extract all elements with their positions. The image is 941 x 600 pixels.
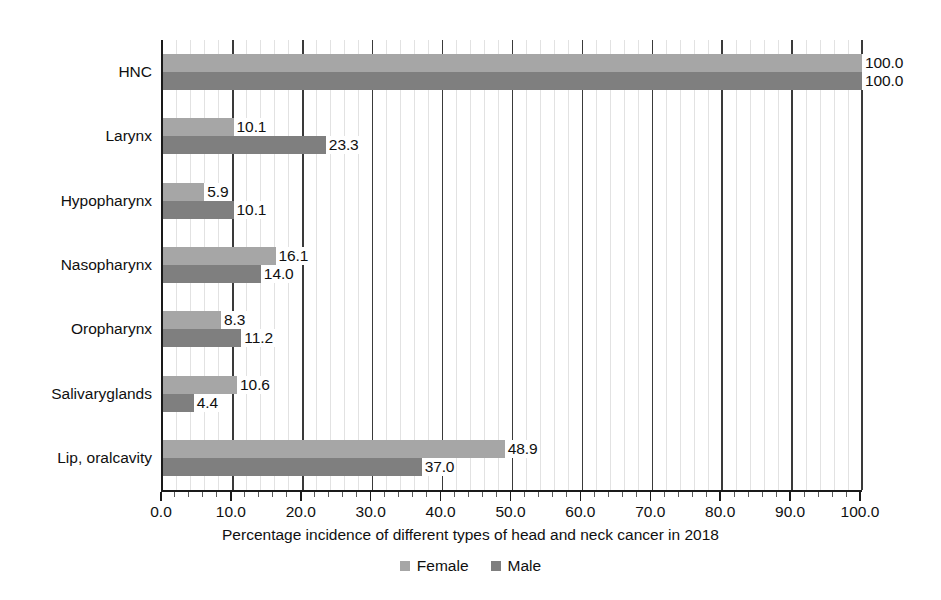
- bar-chart: HNCLarynxHypopharynxNasopharynxOropharyn…: [0, 0, 941, 600]
- bars-layer: 100.0100.010.123.35.910.116.114.08.311.2…: [163, 40, 862, 490]
- x-tick-minor: [216, 492, 217, 497]
- bar-value-label: 23.3: [326, 136, 361, 154]
- x-tick-minor: [314, 492, 315, 497]
- x-tick-label: 80.0: [705, 503, 735, 521]
- bar-value-label: 48.9: [505, 440, 540, 458]
- bar-group: 8.311.2: [163, 311, 862, 347]
- x-tick-minor: [426, 492, 427, 497]
- bar-female: [163, 311, 221, 329]
- bar-male: [163, 201, 234, 219]
- x-tick-minor: [608, 492, 609, 497]
- x-tick-minor: [776, 492, 777, 497]
- x-tick-minor: [328, 492, 329, 497]
- x-tick-label: 30.0: [356, 503, 386, 521]
- x-tick-minor: [692, 492, 693, 497]
- bar-female: [163, 247, 276, 265]
- x-tick-minor: [384, 492, 385, 497]
- x-tick-label: 100.0: [841, 503, 880, 521]
- legend-item-male[interactable]: Male: [491, 558, 542, 574]
- x-tick-label: 20.0: [286, 503, 316, 521]
- x-tick-minor: [286, 492, 287, 497]
- bar-male: [163, 136, 326, 154]
- x-tick-label: 50.0: [495, 503, 525, 521]
- bar-value-label: 10.1: [234, 118, 269, 136]
- bar-male: [163, 265, 261, 283]
- bar-female: [163, 183, 204, 201]
- bar-male: [163, 329, 241, 347]
- x-tick-minor: [342, 492, 343, 497]
- x-tick-major: [789, 492, 791, 501]
- x-tick-minor: [496, 492, 497, 497]
- y-axis-label: Lip, oralcavity: [0, 449, 152, 467]
- y-axis-labels: HNCLarynxHypopharynxNasopharynxOropharyn…: [0, 40, 152, 490]
- bar-value-label: 5.9: [204, 183, 230, 201]
- x-tick-minor: [482, 492, 483, 497]
- x-tick-minor: [524, 492, 525, 497]
- x-tick-minor: [818, 492, 819, 497]
- y-axis-label: Salivaryglands: [0, 385, 152, 403]
- x-tick-label: 0.0: [150, 503, 172, 521]
- bar-male: [163, 394, 194, 412]
- x-tick-major: [510, 492, 512, 501]
- y-axis-label: HNC: [0, 63, 152, 81]
- x-tick-major: [230, 492, 232, 501]
- x-tick-minor: [356, 492, 357, 497]
- x-tick-label: 40.0: [426, 503, 456, 521]
- x-tick-minor: [398, 492, 399, 497]
- x-tick-label: 90.0: [775, 503, 805, 521]
- x-tick-major: [370, 492, 372, 501]
- x-tick-minor: [412, 492, 413, 497]
- bar-value-label: 8.3: [221, 311, 247, 329]
- legend-label: Female: [417, 558, 469, 574]
- x-tick-minor: [202, 492, 203, 497]
- bar-value-label: 11.2: [241, 329, 275, 347]
- y-axis-label: Hypopharynx: [0, 192, 152, 210]
- bar-group: 48.937.0: [163, 440, 862, 476]
- bar-female: [163, 440, 505, 458]
- x-tick-minor: [174, 492, 175, 497]
- bar-female: [163, 54, 862, 72]
- bar-value-label: 37.0: [422, 458, 457, 476]
- x-tick-minor: [706, 492, 707, 497]
- legend: FemaleMale: [0, 558, 941, 574]
- bar-group: 10.123.3: [163, 118, 862, 154]
- bar-group: 100.0100.0: [163, 54, 862, 90]
- x-tick-label: 70.0: [635, 503, 665, 521]
- y-axis-label: Larynx: [0, 127, 152, 145]
- x-tick-minor: [748, 492, 749, 497]
- x-tick-minor: [188, 492, 189, 497]
- x-tick-minor: [622, 492, 623, 497]
- x-tick-minor: [538, 492, 539, 497]
- x-tick-major: [160, 492, 162, 501]
- legend-swatch-icon: [491, 561, 501, 571]
- x-axis-title: Percentage incidence of different types …: [0, 526, 941, 544]
- x-tick-minor: [594, 492, 595, 497]
- x-tick-major: [300, 492, 302, 501]
- bar-male: [163, 72, 862, 90]
- bar-female: [163, 118, 234, 136]
- x-tick-minor: [832, 492, 833, 497]
- x-tick-minor: [804, 492, 805, 497]
- bar-value-label: 4.4: [194, 394, 220, 412]
- plot-area: 100.0100.010.123.35.910.116.114.08.311.2…: [161, 40, 862, 492]
- x-tick-minor: [272, 492, 273, 497]
- bar-female: [163, 376, 237, 394]
- bar-value-label: 14.0: [261, 265, 296, 283]
- x-tick-minor: [454, 492, 455, 497]
- x-tick-minor: [258, 492, 259, 497]
- bar-value-label: 10.1: [234, 201, 269, 219]
- legend-item-female[interactable]: Female: [400, 558, 469, 574]
- x-tick-minor: [678, 492, 679, 497]
- x-tick-minor: [244, 492, 245, 497]
- x-tick-minor: [552, 492, 553, 497]
- x-tick-label: 10.0: [216, 503, 246, 521]
- bar-male: [163, 458, 422, 476]
- x-tick-label: 60.0: [565, 503, 595, 521]
- x-tick-minor: [566, 492, 567, 497]
- x-tick-major: [650, 492, 652, 501]
- x-tick-major: [859, 492, 861, 501]
- bar-group: 16.114.0: [163, 247, 862, 283]
- y-axis-label: Oropharynx: [0, 320, 152, 338]
- bar-value-label: 10.6: [237, 376, 272, 394]
- legend-label: Male: [508, 558, 542, 574]
